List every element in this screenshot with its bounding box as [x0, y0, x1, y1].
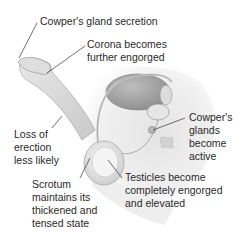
label-scrotum-line2: maintains its [32, 191, 90, 204]
label-corona-line1: Corona becomes [87, 38, 167, 51]
label-glands-line2: glands [189, 124, 220, 137]
label-testicles-line3: and elevated [125, 197, 185, 210]
seminal-vesicle [160, 85, 172, 105]
label-loss-line2: erection [14, 141, 51, 154]
label-scrotum-line1: Scrotum [32, 178, 71, 191]
label-cowpers-gland-secretion: Cowper's gland secretion [40, 15, 158, 28]
label-glands-line3: become [189, 137, 226, 150]
label-loss-line1: Loss of [14, 128, 48, 141]
label-testicles-line1: Testicles become [125, 171, 206, 184]
testicle [92, 147, 118, 177]
prostate [147, 104, 169, 120]
label-glands-line4: active [189, 150, 216, 163]
label-glands-line1: Cowper's [189, 111, 232, 124]
anal-region [160, 137, 174, 148]
anatomy-diagram: Cowper's gland secretion Corona becomes … [0, 0, 240, 233]
label-scrotum-line3: thickened and [32, 204, 97, 217]
label-testicles-line2: completely engorged [125, 184, 222, 197]
label-loss-line3: less likely [14, 154, 59, 167]
label-corona-line2: further engorged [87, 51, 165, 64]
label-scrotum-line4: tensed state [32, 217, 89, 230]
